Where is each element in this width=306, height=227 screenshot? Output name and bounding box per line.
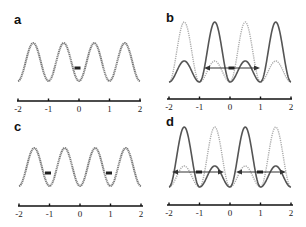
panel-a: a -2 -1 0 1 2 [0,0,153,113]
x-axis [167,203,293,206]
x-tick-label: -2 [165,208,173,218]
state-1-solid-curve [169,127,291,187]
x-tick-label: -1 [196,102,204,112]
particle-marker [196,171,202,174]
x-tick-label: 2 [139,209,144,219]
panel-b: b -2 -1 0 1 2 [153,0,306,113]
x-tick-label: 1 [258,102,263,112]
x-tick-label: -2 [15,209,23,219]
x-axis [18,204,143,207]
x-tick-label: 1 [108,209,113,219]
particle-marker [75,67,81,70]
x-tick-label: 1 [258,208,263,218]
potential-curve [19,148,141,186]
panel-d: d -2 -1 0 1 2 [153,113,306,226]
particle-marker [45,172,51,175]
x-tick-label: -1 [46,209,54,219]
chart-c [0,113,153,227]
x-axis [17,99,141,102]
x-tick-label: 2 [289,208,294,218]
x-tick-label: 0 [228,208,233,218]
x-axis [167,97,292,100]
x-tick-label: -2 [165,102,173,112]
particle-marker [229,67,235,70]
state-1-solid-curve [169,22,291,82]
potential-curve [18,43,140,81]
x-tick-label: -1 [196,208,204,218]
panel-c: c -2 -1 0 1 2 [0,113,153,226]
x-tick-label: 2 [289,102,294,112]
chart-a [0,0,153,113]
x-tick-label: 0 [228,102,233,112]
particle-marker [106,172,112,175]
x-tick-label: 0 [78,209,83,219]
chart-b [153,0,306,113]
particle-marker [257,171,263,174]
